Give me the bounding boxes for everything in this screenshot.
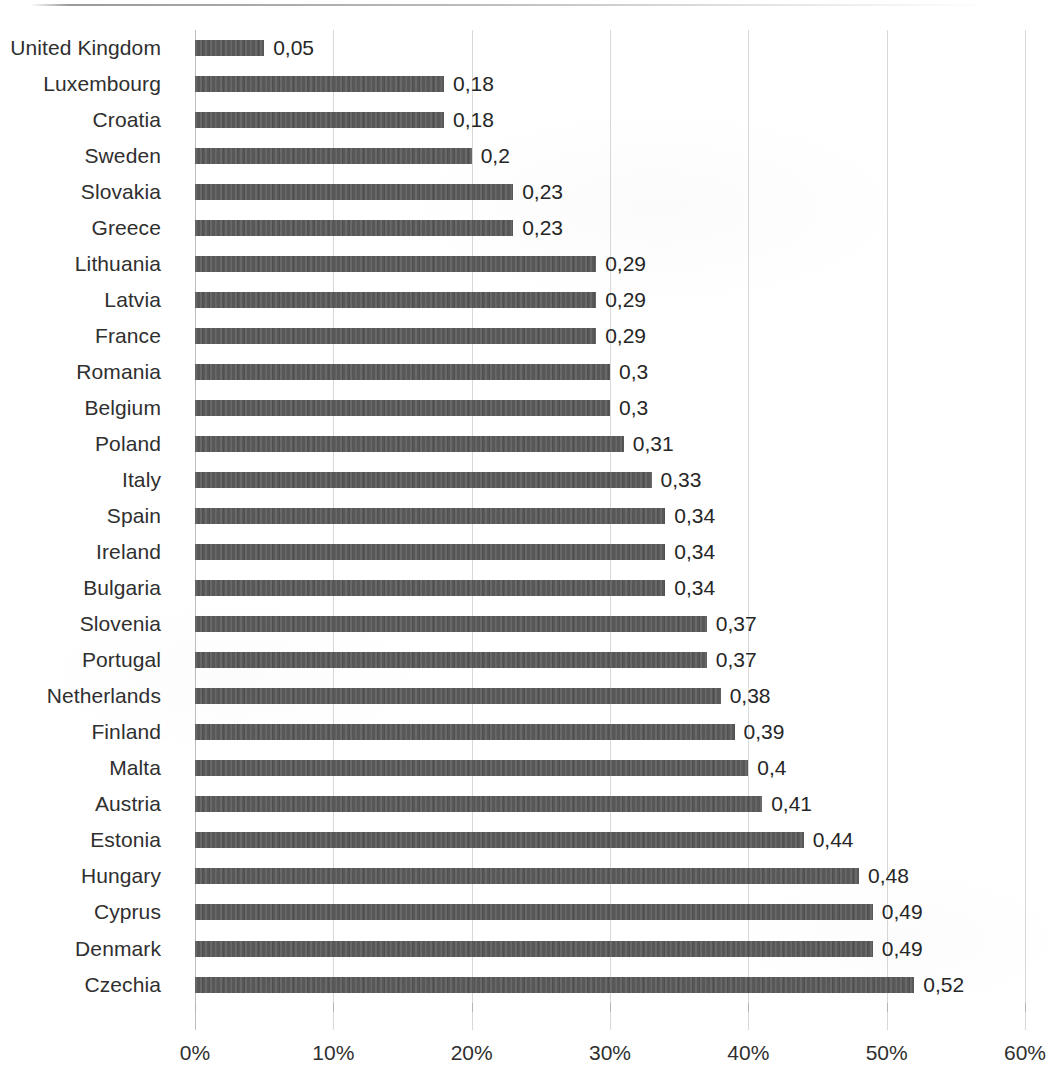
bar-value-label: 0,38	[730, 678, 771, 714]
category-label: Luxembourg	[0, 66, 178, 102]
category-label: Croatia	[0, 102, 178, 138]
category-label: Estonia	[0, 822, 178, 858]
x-tick-label: 30%	[589, 1038, 631, 1068]
category-label: Lithuania	[0, 246, 178, 282]
bar	[195, 220, 513, 236]
bar	[195, 724, 735, 740]
x-axis-tick-labels: 0%10%20%30%40%50%60%	[0, 1038, 1058, 1070]
bar	[195, 941, 873, 957]
bar-value-label: 0,18	[453, 66, 494, 102]
bar	[195, 616, 707, 632]
bar-row: Finland0,39	[0, 714, 1058, 750]
bar-value-label: 0,37	[716, 642, 757, 678]
bar	[195, 760, 748, 776]
bar-value-label: 0,52	[923, 967, 964, 1003]
x-tick-label: 40%	[727, 1038, 769, 1068]
bar	[195, 508, 665, 524]
bar-row: Ireland0,34	[0, 534, 1058, 570]
category-label: Denmark	[0, 931, 178, 967]
tick-mark-30%	[610, 1003, 611, 1012]
bar-value-label: 0,29	[605, 282, 646, 318]
bar-value-label: 0,41	[771, 786, 812, 822]
bar-row: Italy0,33	[0, 462, 1058, 498]
bar-row: Bulgaria0,34	[0, 570, 1058, 606]
bar-value-label: 0,34	[674, 534, 715, 570]
bar-value-label: 0,05	[273, 30, 314, 66]
bar-row: Luxembourg0,18	[0, 66, 1058, 102]
bar	[195, 652, 707, 668]
category-label: Sweden	[0, 138, 178, 174]
bar-value-label: 0,49	[882, 931, 923, 967]
x-tick-label: 20%	[451, 1038, 493, 1068]
bar-value-label: 0,34	[674, 570, 715, 606]
tick-mark-0%	[195, 1003, 196, 1012]
bar-row: Spain0,34	[0, 498, 1058, 534]
bar	[195, 328, 596, 344]
bar-row: Cyprus0,49	[0, 894, 1058, 930]
horizontal-bar-chart: United Kingdom0,05Luxembourg0,18Croatia0…	[0, 0, 1058, 1092]
bar-row: Estonia0,44	[0, 822, 1058, 858]
bar-row: Greece0,23	[0, 210, 1058, 246]
category-label: Ireland	[0, 534, 178, 570]
bar-value-label: 0,3	[619, 354, 648, 390]
bar	[195, 796, 762, 812]
category-label: France	[0, 318, 178, 354]
bar	[195, 472, 652, 488]
bar-row: France0,29	[0, 318, 1058, 354]
category-label: Malta	[0, 750, 178, 786]
bar-value-label: 0,18	[453, 102, 494, 138]
category-label: Poland	[0, 426, 178, 462]
category-label: Italy	[0, 462, 178, 498]
bar	[195, 184, 513, 200]
x-tick-label: 10%	[312, 1038, 354, 1068]
bar	[195, 688, 721, 704]
category-label: Greece	[0, 210, 178, 246]
category-label: Romania	[0, 354, 178, 390]
bar-row: Belgium0,3	[0, 390, 1058, 426]
bar-row: Latvia0,29	[0, 282, 1058, 318]
bar-row: Poland0,31	[0, 426, 1058, 462]
bar-value-label: 0,23	[522, 174, 563, 210]
bar-value-label: 0,4	[757, 750, 786, 786]
category-label: Slovakia	[0, 174, 178, 210]
bar-row: United Kingdom0,05	[0, 30, 1058, 66]
bar-row: Croatia0,18	[0, 102, 1058, 138]
bar-value-label: 0,44	[813, 822, 854, 858]
category-label: Netherlands	[0, 678, 178, 714]
bar-row: Portugal0,37	[0, 642, 1058, 678]
bar-row: Sweden0,2	[0, 138, 1058, 174]
tick-mark-60%	[1025, 1003, 1026, 1012]
bar-value-label: 0,3	[619, 390, 648, 426]
bar	[195, 256, 596, 272]
bar	[195, 904, 873, 920]
category-label: Hungary	[0, 858, 178, 894]
category-label: Latvia	[0, 282, 178, 318]
bar	[195, 832, 804, 848]
bar-value-label: 0,34	[674, 498, 715, 534]
bar-row: Netherlands0,38	[0, 678, 1058, 714]
bar	[195, 76, 444, 92]
x-tick-label: 0%	[180, 1038, 210, 1068]
category-label: Finland	[0, 714, 178, 750]
bar-value-label: 0,39	[744, 714, 785, 750]
category-label: Czechia	[0, 967, 178, 1003]
bar-value-label: 0,31	[633, 426, 674, 462]
bar	[195, 112, 444, 128]
bar	[195, 868, 859, 884]
bar-value-label: 0,29	[605, 246, 646, 282]
bar-row: Malta0,4	[0, 750, 1058, 786]
bar-row: Czechia0,52	[0, 967, 1058, 1003]
x-tick-label: 50%	[866, 1038, 908, 1068]
bar-value-label: 0,2	[481, 138, 510, 174]
category-label: Portugal	[0, 642, 178, 678]
bar-row: Denmark0,49	[0, 931, 1058, 967]
bar-row: Slovenia0,37	[0, 606, 1058, 642]
x-tick-label: 60%	[1004, 1038, 1046, 1068]
bar	[195, 544, 665, 560]
tick-mark-40%	[748, 1003, 749, 1012]
bar-row: Hungary0,48	[0, 858, 1058, 894]
category-label: Slovenia	[0, 606, 178, 642]
bar-value-label: 0,37	[716, 606, 757, 642]
bar	[195, 40, 264, 56]
bar	[195, 436, 624, 452]
